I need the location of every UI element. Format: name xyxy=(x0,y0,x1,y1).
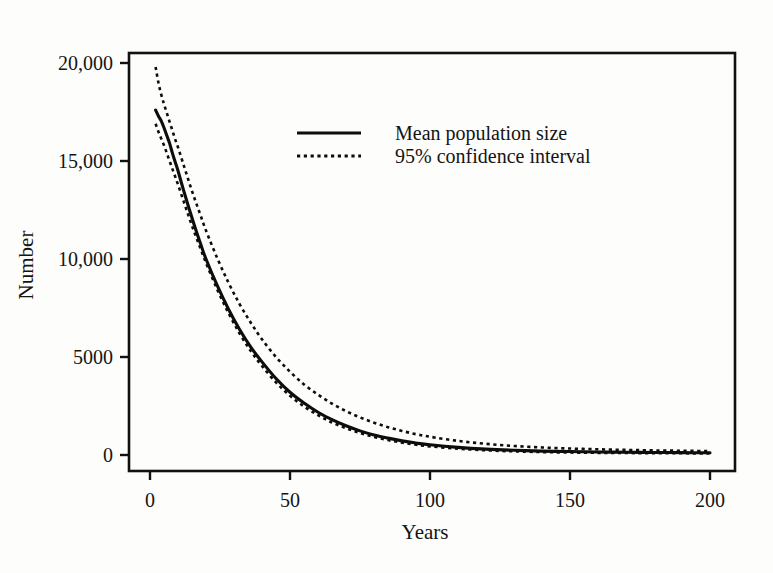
x-axis-ticks xyxy=(150,471,710,480)
y-axis-tick-labels: 0500010,00015,00020,000 xyxy=(58,52,113,466)
population-decline-chart: 0500010,00015,00020,000 050100150200 Yea… xyxy=(0,0,773,573)
y-tick-label: 15,000 xyxy=(58,150,113,172)
y-axis-title: Number xyxy=(14,231,38,300)
figure-canvas: 0500010,00015,00020,000 050100150200 Yea… xyxy=(0,0,773,573)
x-tick-label: 50 xyxy=(280,489,300,511)
legend-label-confidence-interval: 95% confidence interval xyxy=(395,145,591,167)
y-tick-label: 10,000 xyxy=(58,248,113,270)
x-tick-label: 0 xyxy=(145,489,155,511)
x-axis-tick-labels: 050100150200 xyxy=(145,489,725,511)
x-tick-label: 100 xyxy=(415,489,445,511)
y-axis-ticks xyxy=(120,63,129,455)
y-tick-label: 5000 xyxy=(73,346,113,368)
x-tick-label: 200 xyxy=(695,489,725,511)
y-tick-label: 20,000 xyxy=(58,52,113,74)
x-axis-title: Years xyxy=(402,520,449,544)
x-tick-label: 150 xyxy=(555,489,585,511)
series-line-confidence-interval xyxy=(156,124,710,454)
legend-label-mean: Mean population size xyxy=(395,122,567,145)
y-tick-label: 0 xyxy=(103,444,113,466)
chart-legend: Mean population size 95% confidence inte… xyxy=(297,122,591,167)
